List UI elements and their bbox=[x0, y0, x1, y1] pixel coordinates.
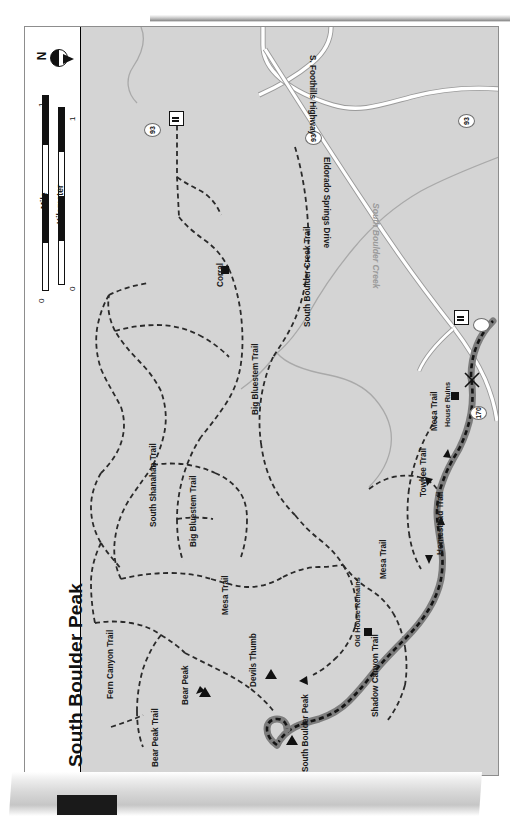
scale-tick-mi-1: 1 bbox=[37, 103, 46, 107]
trailhead-icon-southeast[interactable] bbox=[454, 310, 469, 325]
route-shield-93-c[interactable]: 93 bbox=[458, 114, 475, 128]
label-bear-peak: Bear Peak bbox=[181, 665, 190, 705]
label-corral: Corral bbox=[216, 263, 225, 287]
route-shield-93-b[interactable]: 93 bbox=[144, 123, 161, 137]
peak-marker-bear-peak[interactable] bbox=[199, 687, 211, 697]
label-south-shanahan-trail: South Shanahan Trail bbox=[149, 443, 158, 527]
trailhead-icon-north[interactable] bbox=[169, 111, 184, 126]
label-old-house-remains: Old House Remains bbox=[353, 577, 362, 647]
scale-tick-mi-0: 0 bbox=[37, 299, 46, 303]
route-shield-170[interactable]: 170 bbox=[470, 406, 487, 420]
peak-marker-south-boulder-peak[interactable] bbox=[286, 735, 298, 745]
scale-tick-km-0: 0 bbox=[68, 287, 77, 291]
label-fern-canyon-trail: Fern Canyon Trail bbox=[106, 630, 115, 699]
label-s-foothills-highway: S. Foothills Highway bbox=[308, 55, 317, 135]
north-arrow-tip bbox=[63, 54, 74, 64]
label-mesa-trail-east: Mesa Trail bbox=[430, 391, 439, 431]
label-shadow-canyon-trail: Shadow Canyon Trail bbox=[371, 634, 380, 717]
scale-tick-km-1: 1 bbox=[68, 117, 77, 121]
north-label: N bbox=[35, 52, 49, 61]
label-south-boulder-creek: South Boulder Creek bbox=[371, 203, 381, 288]
map-canvas[interactable]: 93 93 93 170 Corral Big Bluestem Trail B… bbox=[81, 27, 498, 775]
route-direction-arrows bbox=[196, 449, 451, 694]
page-bottom-block bbox=[57, 795, 117, 815]
peak-marker-devils-thumb[interactable] bbox=[265, 669, 277, 679]
trail-layer bbox=[91, 117, 437, 747]
page-top-shadow bbox=[150, 6, 510, 22]
scale-label-kilometer: Kilometer bbox=[55, 185, 65, 224]
label-big-bluestem-trail-lower: Big Bluestem Trail bbox=[189, 476, 198, 547]
label-homestead-trail: Homestead Trail bbox=[436, 492, 445, 555]
scale-bar: Kilometer Mile 0 1 0 1 bbox=[31, 89, 77, 304]
poi-marker-house-ruins[interactable] bbox=[451, 392, 459, 400]
label-house-ruins: House Ruins bbox=[443, 382, 452, 427]
label-mesa-trail-mid: Mesa Trail bbox=[379, 539, 388, 579]
label-south-boulder-creek-trail: South Boulder Creek Trail bbox=[303, 226, 312, 327]
label-big-bluestem-trail-upper: Big Bluestem Trail bbox=[251, 344, 260, 415]
label-towhee-trail: Towhee Trail bbox=[419, 448, 428, 497]
scale-label-mile: Mile bbox=[39, 192, 49, 209]
label-bear-peak-trail: Bear Peak Trail bbox=[151, 708, 160, 767]
map-frame: N Kilometer Mile 0 1 0 1 South Boulder P… bbox=[24, 26, 499, 776]
label-devils-thumb-line1: Devils Thumb bbox=[249, 633, 258, 687]
north-arrow-icon: N bbox=[34, 41, 76, 81]
label-mesa-trail-west: Mesa Trail bbox=[221, 575, 230, 615]
map-info-band: N Kilometer Mile 0 1 0 1 South Boulder P… bbox=[25, 27, 81, 775]
route-shield-junction[interactable] bbox=[473, 318, 490, 332]
label-south-boulder-peak: South Boulder Peak bbox=[301, 694, 310, 772]
label-eldorado-springs-drive: Eldorado Springs Drive bbox=[322, 157, 331, 248]
